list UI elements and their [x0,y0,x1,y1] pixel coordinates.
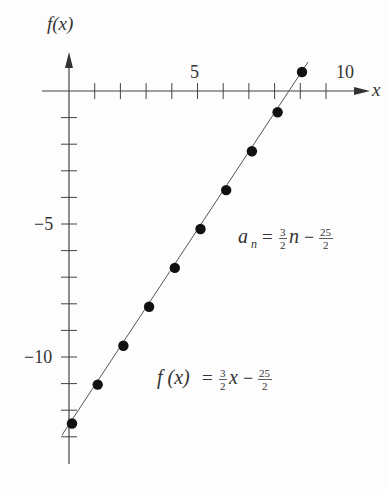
x-axis-arrow-icon [354,87,370,95]
x-tick-label-10: 10 [336,62,354,82]
svg-text:3: 3 [280,226,286,238]
svg-text:2: 2 [323,239,329,251]
svg-text:3: 3 [220,367,226,379]
annotation-function: f (x) = 3 2 x − 25 2 [157,366,272,392]
svg-text:25: 25 [259,367,271,379]
svg-text:2: 2 [280,239,286,251]
svg-text:=: = [202,367,213,388]
y-tick-label-neg5: −5 [34,214,53,234]
svg-text:2: 2 [220,380,226,392]
point-a0 [67,418,77,428]
point-a6 [221,185,231,195]
svg-text:a: a [238,225,248,247]
svg-text:n: n [289,225,299,247]
svg-text:n: n [251,237,257,251]
svg-text:x: x [228,366,238,388]
point-a5 [195,224,205,234]
point-a8 [272,107,282,117]
y-tick-label-neg10: −10 [24,347,52,367]
x-tick-label-5: 5 [190,62,199,82]
point-a3 [144,302,154,312]
point-a9 [297,67,307,77]
svg-text:25: 25 [320,226,332,238]
point-a7 [247,146,257,156]
y-axis-arrow-icon [65,52,73,68]
y-axis-label: f(x) [47,13,73,35]
svg-text:f (x): f (x) [157,366,190,389]
svg-text:2: 2 [262,380,268,392]
point-a2 [118,341,128,351]
annotation-sequence: a n = 3 2 n − 25 2 [238,225,333,251]
axes [42,62,360,464]
point-a4 [170,263,180,273]
svg-text:−: − [304,227,314,247]
x-axis-label: x [371,79,381,100]
svg-text:−: − [243,368,253,388]
point-a1 [93,379,103,389]
svg-text:=: = [262,226,273,247]
chart: f(x) x 5 10 −5 −10 a n = 3 2 n − 25 2 f … [0,0,389,490]
